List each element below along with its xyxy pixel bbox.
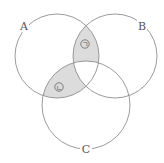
venn-diagram: A B C ㄱ ㄴ [0, 0, 164, 163]
set-label-b: B [138, 20, 146, 33]
set-label-a: A [19, 20, 29, 33]
region-label-text: ㄴ [56, 84, 62, 92]
region-label-text: ㄱ [82, 41, 88, 49]
set-label-c: C [82, 143, 90, 156]
region-label-1: ㄱ [81, 40, 89, 49]
region-label-2: ㄴ [55, 83, 63, 92]
